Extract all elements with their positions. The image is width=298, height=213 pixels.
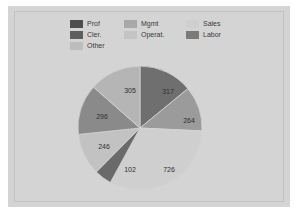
legend-swatch-icon xyxy=(70,42,83,50)
legend-item-operat[interactable]: Operat. xyxy=(124,29,186,40)
legend-swatch-icon xyxy=(124,20,137,28)
slice-value-label: 726 xyxy=(163,166,175,174)
legend-label: Operat. xyxy=(141,31,164,39)
legend-item-cler[interactable]: Cler. xyxy=(70,29,124,40)
legend-swatch-icon xyxy=(186,31,199,39)
legend-label: Prof xyxy=(87,20,100,28)
legend-swatch-icon xyxy=(70,20,83,28)
legend-label: Sales xyxy=(203,20,221,28)
slice-value-label: 305 xyxy=(124,87,136,95)
legend-swatch-icon xyxy=(124,31,137,39)
chart-legend: ProfMgmtSalesCler.Operat.LaborOther xyxy=(70,18,240,51)
legend-item-labor[interactable]: Labor xyxy=(186,29,240,40)
pie-slices xyxy=(76,64,204,192)
legend-item-other[interactable]: Other xyxy=(70,40,124,51)
slice-value-label: 246 xyxy=(98,143,110,151)
legend-item-prof[interactable]: Prof xyxy=(70,18,124,29)
legend-label: Labor xyxy=(203,31,221,39)
legend-item-sales[interactable]: Sales xyxy=(186,18,240,29)
legend-item-mgmt[interactable]: Mgmt xyxy=(124,18,186,29)
figure-panel: ProfMgmtSalesCler.Operat.LaborOther 3172… xyxy=(8,6,290,207)
pie-chart: 317264726102246296305 xyxy=(76,64,204,192)
slice-value-label: 264 xyxy=(183,117,195,125)
slice-value-label: 317 xyxy=(162,88,174,96)
legend-swatch-icon xyxy=(186,20,199,28)
legend-swatch-icon xyxy=(70,31,83,39)
legend-label: Mgmt xyxy=(141,20,159,28)
slice-value-label: 296 xyxy=(96,113,108,121)
legend-label: Other xyxy=(87,42,105,50)
legend-label: Cler. xyxy=(87,31,101,39)
slice-value-label: 102 xyxy=(124,166,136,174)
